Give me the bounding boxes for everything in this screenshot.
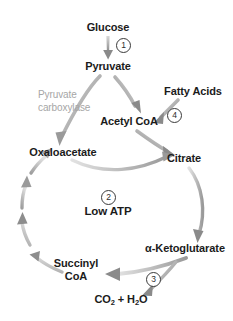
label-succinyl-coa: Succinyl CoA xyxy=(38,257,114,282)
label-oxaloacetate: Oxaloacetate xyxy=(18,146,108,158)
enzyme-line-1: Pyruvate xyxy=(38,89,77,100)
h2o-suffix: O xyxy=(139,293,147,305)
step-number-3: 3 xyxy=(146,272,161,287)
label-alpha-ketoglutarate: α-Ketoglutarate xyxy=(139,242,231,254)
label-low-atp: Low ATP xyxy=(67,205,149,217)
co2-prefix: CO xyxy=(95,293,111,305)
arrow-succinylcoa-to-oxaloacetate xyxy=(17,148,62,272)
label-pyruvate-carboxylase: Pyruvate carboxylase xyxy=(38,89,90,114)
label-glucose: Glucose xyxy=(0,21,216,33)
arrow-pyruvate-to-acetylcoa xyxy=(115,77,141,114)
arrow-citrate-to-ketoglutarate xyxy=(189,168,204,243)
diagram-canvas: Glucose 1 Pyruvate Pyruvate carboxylase … xyxy=(0,0,233,321)
co2-h2o-middle: + H xyxy=(115,293,135,305)
label-pyruvate: Pyruvate xyxy=(0,60,216,72)
step-number-4: 4 xyxy=(167,108,182,123)
arrow-glucose-to-pyruvate xyxy=(103,36,113,60)
succinyl-coa-line-1: Succinyl xyxy=(54,257,98,269)
succinyl-coa-line-2: CoA xyxy=(65,270,87,282)
label-acetyl-coa: Acetyl CoA xyxy=(96,115,162,127)
label-citrate: Citrate xyxy=(160,152,208,164)
enzyme-line-2: carboxylase xyxy=(38,102,90,113)
label-co2-h2o: CO2 + H2O xyxy=(78,293,164,309)
step-number-2: 2 xyxy=(101,190,116,205)
step-number-1: 1 xyxy=(116,38,131,53)
label-fatty-acids: Fatty Acids xyxy=(155,85,231,97)
